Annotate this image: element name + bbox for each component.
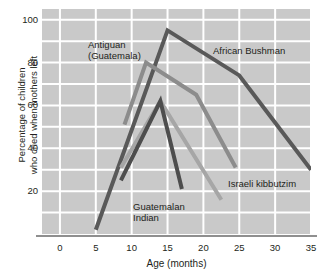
series-label-african-bushman: African Bushman (213, 45, 285, 56)
x-tick-label-30: 30 (263, 243, 287, 253)
y-axis-title-line1: Percentage of children (16, 40, 28, 190)
y-axis-title-line2: who cried when mothers left (28, 40, 40, 190)
x-tick-label-25: 25 (227, 243, 251, 253)
x-tick-label-15: 15 (156, 243, 180, 253)
series-label-israeli-kibbutzim: Israeli kibbutzim (228, 178, 296, 189)
series-label-antiguan-line1: Antiguan (88, 39, 141, 50)
x-tick-label-20: 20 (191, 243, 215, 253)
series-label-antiguan-line2: (Guatemala) (88, 50, 141, 61)
x-axis-line (36, 235, 317, 237)
series-label-guatemalan-indian: Guatemalan Indian (133, 201, 185, 223)
x-axis-title: Age (months) (42, 258, 311, 269)
x-tick-label-10: 10 (120, 243, 144, 253)
series-label-antiguan: Antiguan (Guatemala) (88, 39, 141, 61)
chart-container: 20406080100 05101520253035 Percentage of… (0, 0, 325, 276)
x-tick-label-35: 35 (299, 243, 323, 253)
y-tick-label-100: 100 (16, 15, 38, 25)
series-line-antiguan-guatemala (124, 63, 235, 168)
x-tick-label-5: 5 (84, 243, 108, 253)
series-label-guatemalan-line1: Guatemalan (133, 201, 185, 212)
x-tick-label-0: 0 (48, 243, 72, 253)
y-axis-title: Percentage of children who cried when mo… (16, 40, 40, 190)
series-label-guatemalan-line2: Indian (133, 212, 185, 223)
